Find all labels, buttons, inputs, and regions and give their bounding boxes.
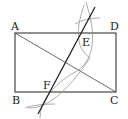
label-f: F xyxy=(43,79,51,92)
geometry-diagram: A D B C E F xyxy=(0,0,128,119)
label-a: A xyxy=(10,20,20,33)
arc-from-a xyxy=(28,5,90,108)
label-b: B xyxy=(12,94,20,107)
label-c: C xyxy=(110,94,118,107)
label-e: E xyxy=(82,36,90,49)
label-d: D xyxy=(110,20,119,33)
bisector-line-ef xyxy=(38,7,95,114)
